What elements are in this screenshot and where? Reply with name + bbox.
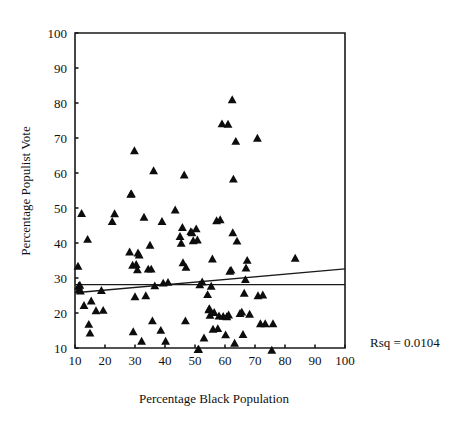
data-point (269, 319, 278, 327)
data-point (245, 310, 254, 318)
x-tick-label-40: 40 (159, 353, 172, 368)
data-point (127, 189, 136, 197)
x-tick-label-90: 90 (309, 353, 322, 368)
data-point (84, 320, 93, 328)
x-axis-tick-labels: 102030405060708090100 (69, 353, 355, 368)
x-tick-label-100: 100 (335, 353, 355, 368)
data-point (178, 223, 187, 231)
y-axis-tick-labels: 102030405060708090100 (48, 26, 68, 356)
y-tick-label-80: 80 (54, 96, 67, 111)
x-tick-label-30: 30 (129, 353, 142, 368)
data-point (99, 306, 108, 314)
data-point (228, 228, 237, 236)
data-point (83, 235, 92, 243)
data-point (148, 316, 157, 324)
data-point (130, 146, 139, 154)
data-point (129, 327, 138, 335)
data-point (224, 120, 233, 128)
data-point (176, 232, 185, 240)
data-point (228, 95, 237, 103)
y-tick-label-60: 60 (54, 166, 67, 181)
data-point (224, 311, 233, 319)
data-point (158, 217, 167, 225)
data-point (181, 316, 190, 324)
data-point (231, 137, 240, 145)
data-point (146, 241, 155, 249)
x-tick-label-20: 20 (99, 353, 112, 368)
data-point (192, 224, 201, 232)
y-tick-label-100: 100 (48, 26, 68, 41)
y-tick-label-30: 30 (54, 271, 67, 286)
data-point (141, 291, 150, 299)
data-point (221, 330, 230, 338)
y-tick-label-70: 70 (54, 131, 67, 146)
data-point (108, 217, 117, 225)
y-tick-label-90: 90 (54, 61, 67, 76)
figure-container: 102030405060708090100 102030405060708090… (0, 0, 469, 426)
data-point (230, 339, 239, 347)
plot-frame (75, 33, 345, 348)
y-tick-label-40: 40 (54, 236, 67, 251)
data-point (267, 346, 276, 354)
data-point (243, 256, 252, 264)
x-tick-label-80: 80 (279, 353, 292, 368)
data-point (92, 306, 101, 314)
data-point (229, 175, 238, 183)
x-tick-label-50: 50 (189, 353, 202, 368)
data-point (205, 304, 214, 312)
data-point (110, 209, 119, 217)
data-point (241, 275, 250, 283)
data-point (240, 289, 249, 297)
data-point (149, 166, 158, 174)
data-point (137, 337, 146, 345)
data-point (207, 282, 216, 290)
y-tick-label-20: 20 (54, 306, 67, 321)
data-point (291, 254, 300, 262)
y-tick-label-50: 50 (54, 201, 67, 216)
data-point (233, 237, 242, 245)
data-point (242, 264, 251, 272)
frame-border (75, 33, 345, 348)
x-tick-label-60: 60 (219, 353, 232, 368)
data-point (87, 297, 96, 305)
data-point (156, 326, 165, 334)
scatter-plot: 102030405060708090100 102030405060708090… (0, 0, 469, 426)
data-point (203, 290, 212, 298)
y-axis-title: Percentage Populist Vote (18, 126, 33, 256)
data-point (161, 337, 170, 345)
rsq-annotation: Rsq = 0.0104 (370, 335, 440, 350)
data-point (131, 292, 140, 300)
data-point (180, 171, 189, 179)
data-point (200, 334, 209, 342)
data-point (77, 209, 86, 217)
x-tick-label-10: 10 (69, 353, 82, 368)
data-point (86, 329, 95, 337)
data-point (125, 248, 134, 256)
x-axis-title: Percentage Black Population (139, 391, 290, 406)
data-point (208, 255, 217, 263)
data-point (140, 213, 149, 221)
data-point-markers (74, 95, 300, 354)
data-point (80, 301, 89, 309)
data-point (171, 206, 180, 214)
data-point (239, 330, 248, 338)
y-tick-label-10: 10 (54, 341, 67, 356)
data-point (253, 134, 262, 142)
x-tick-label-70: 70 (249, 353, 262, 368)
data-point (227, 266, 236, 274)
